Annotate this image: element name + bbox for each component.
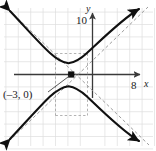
- x-axis-label: x: [144, 79, 148, 89]
- center-point-annotation: (–3, 0): [3, 89, 32, 100]
- hyperbola-figure: y 10 8 x (–3, 0): [0, 0, 156, 151]
- y-axis-label: y: [86, 4, 90, 14]
- x-axis-tick-label: 8: [131, 80, 137, 91]
- y-axis-tick-label: 10: [76, 15, 87, 26]
